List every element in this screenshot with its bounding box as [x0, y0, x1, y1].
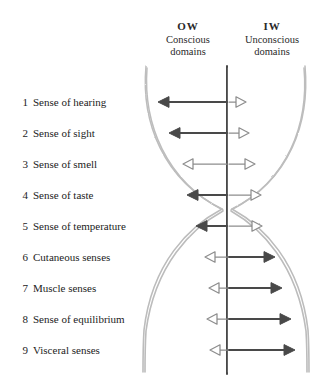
- arrow-row: [0, 148, 331, 179]
- arrow-right-unconscious: [229, 157, 255, 170]
- diagram-canvas: OW Conscious domains IW Unconscious doma…: [0, 0, 331, 379]
- arrow-row: [0, 210, 331, 241]
- arrow-left-conscious: [169, 126, 227, 139]
- arrow-right-unconscious: [229, 95, 246, 108]
- arrow-left-conscious: [183, 157, 227, 170]
- arrow-left-conscious: [196, 219, 227, 232]
- arrow-right-unconscious: [229, 126, 249, 139]
- arrow-right-unconscious: [229, 219, 262, 232]
- arrow-left-conscious: [205, 250, 227, 263]
- arrow-right-unconscious: [229, 188, 261, 201]
- arrow-row: [0, 179, 331, 210]
- arrow-row: [0, 272, 331, 303]
- arrow-row: [0, 86, 331, 117]
- arrow-left-conscious: [158, 95, 227, 108]
- arrow-left-conscious: [187, 188, 227, 201]
- arrow-left-conscious: [207, 312, 227, 325]
- arrow-left-conscious: [210, 343, 227, 356]
- arrow-row: [0, 241, 331, 272]
- arrow-left-conscious: [209, 281, 227, 294]
- arrow-right-unconscious: [229, 312, 291, 325]
- arrow-right-unconscious: [229, 250, 275, 263]
- arrow-row-group: [0, 86, 331, 365]
- arrow-row: [0, 334, 331, 365]
- arrow-row: [0, 117, 331, 148]
- arrow-right-unconscious: [229, 281, 282, 294]
- arrow-row: [0, 303, 331, 334]
- arrow-right-unconscious: [229, 343, 295, 356]
